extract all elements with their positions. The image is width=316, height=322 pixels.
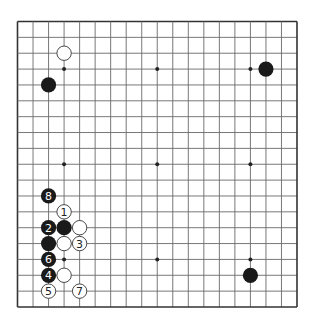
move-number-label: 7 [76,285,83,298]
go-board: 81236457 [0,0,316,322]
black-stone-4: 4 [41,268,56,283]
white-stone-shape [57,268,71,282]
move-number-label: 8 [45,190,52,203]
move-number-label: 4 [45,269,52,282]
white-stone [72,220,86,234]
white-stone [57,236,71,250]
white-stone-5: 5 [41,284,55,298]
black-stone [258,61,273,76]
move-number-label: 3 [76,238,83,251]
move-number-label: 2 [45,222,52,235]
white-stone [57,268,71,282]
go-board-diagram: 81236457 [0,0,316,322]
black-stone-2: 2 [41,220,56,235]
white-stone-1: 1 [57,205,71,219]
move-number-label: 6 [45,253,52,266]
black-stone [56,220,71,235]
white-stone-7: 7 [72,284,86,298]
move-number-label: 5 [45,285,52,298]
black-stone [41,236,56,251]
star-point [155,257,159,261]
star-point [248,67,252,71]
star-point [248,162,252,166]
black-stone-shape [41,236,56,251]
star-point [155,67,159,71]
star-point [155,162,159,166]
star-point [62,67,66,71]
black-stone-shape [243,268,258,283]
star-point [62,257,66,261]
black-stone-shape [56,220,71,235]
black-stone [243,268,258,283]
black-stone-8: 8 [41,188,56,203]
star-point [62,162,66,166]
black-stone-6: 6 [41,252,56,267]
white-stone-3: 3 [72,236,86,250]
black-stone-shape [41,77,56,92]
white-stone-shape [57,236,71,250]
white-stone-shape [72,220,86,234]
star-point [248,257,252,261]
white-stone-shape [57,46,71,60]
move-number-label: 1 [61,206,68,219]
black-stone-shape [258,61,273,76]
black-stone [41,77,56,92]
white-stone [57,46,71,60]
